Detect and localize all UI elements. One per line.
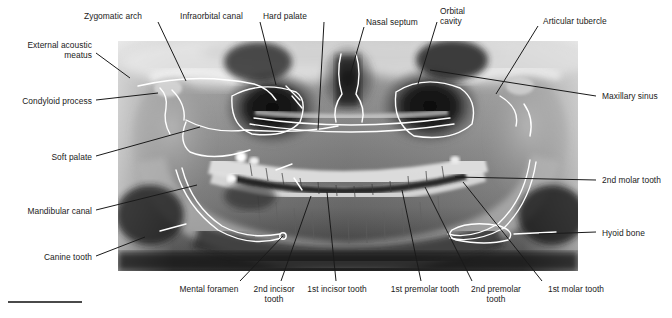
label-2nd-molar-tooth: 2nd molar tooth [602,175,672,185]
label-1st-molar-tooth: 1st molar tooth [540,284,612,294]
label-hyoid-bone: Hyoid bone [602,228,656,238]
label-2nd-premolar-tooth: 2nd premolar tooth [464,284,528,304]
label-soft-palate: Soft palate [44,152,92,162]
footer-rule [8,301,82,303]
label-nasal-septum: Nasal septum [366,17,432,27]
label-orbital-cavity: Orbital cavity [440,6,478,26]
label-mental-foramen: Mental foramen [174,284,244,294]
label-mandibular-canal: Mandibular canal [16,206,92,216]
label-external-acoustic-meatus: External acoustic meatus [16,40,92,60]
label-canine-tooth: Canine tooth [36,252,92,262]
label-2nd-incisor-tooth: 2nd incisor tooth [247,284,301,304]
label-maxillary-sinus: Maxillary sinus [602,91,672,101]
label-articular-tubercle: Articular tubercle [543,16,627,26]
label-1st-incisor-tooth: 1st incisor tooth [300,284,374,294]
annotated-radiograph-figure: External acoustic meatusZygomatic archIn… [0,0,672,318]
label-zygomatic-arch: Zygomatic arch [84,11,156,21]
label-condyloid-process: Condyloid process [14,96,92,106]
label-hard-palate: Hard palate [263,11,321,21]
label-infraorbital-canal: Infraorbital canal [180,11,258,21]
label-1st-premolar-tooth: 1st premolar tooth [383,284,467,294]
panoramic-xray-image [0,0,672,318]
